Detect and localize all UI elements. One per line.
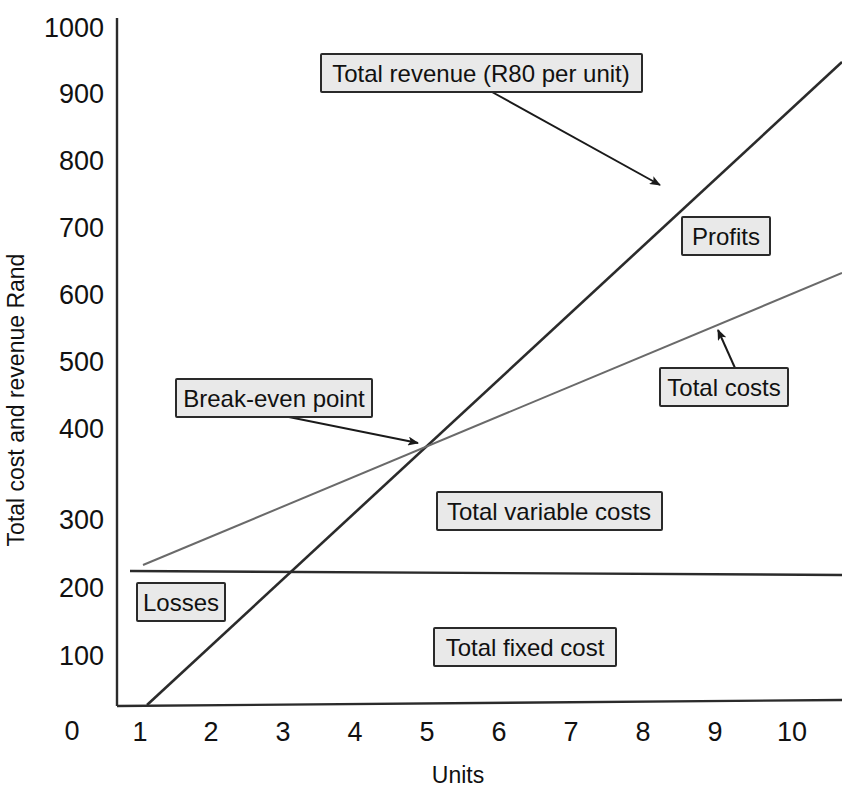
annotation-losses: Losses — [137, 583, 225, 621]
total-revenue-label: Total revenue (R80 per unit) — [332, 60, 630, 87]
x-tick-5: 5 — [419, 717, 434, 747]
annotation-total-variable-costs: Total variable costs — [437, 492, 662, 530]
x-tick-1: 1 — [132, 717, 147, 747]
total-variable-costs-label: Total variable costs — [447, 498, 651, 525]
break-even-chart: 1000 900 800 700 600 500 400 300 200 100… — [0, 0, 842, 791]
losses-label: Losses — [143, 589, 219, 616]
y-tick-1000: 1000 — [44, 13, 104, 43]
y-tick-400: 400 — [59, 414, 104, 444]
y-tick-0: 0 — [64, 716, 79, 746]
profits-label: Profits — [692, 223, 760, 250]
x-tick-7: 7 — [563, 717, 578, 747]
annotation-profits: Profits — [682, 217, 770, 255]
y-tick-800: 800 — [59, 146, 104, 176]
x-tick-9: 9 — [707, 717, 722, 747]
total-costs-arrow — [718, 330, 735, 368]
total-fixed-cost-label: Total fixed cost — [446, 634, 605, 661]
chart-canvas: 1000 900 800 700 600 500 400 300 200 100… — [0, 0, 842, 791]
y-tick-500: 500 — [59, 347, 104, 377]
annotation-total-fixed-cost: Total fixed cost — [434, 628, 616, 666]
y-tick-600: 600 — [59, 280, 104, 310]
total-revenue-arrow — [492, 92, 660, 185]
total-costs-label: Total costs — [667, 374, 780, 401]
y-tick-700: 700 — [59, 213, 104, 243]
x-axis-title: Units — [432, 762, 484, 788]
x-tick-10: 10 — [777, 717, 807, 747]
y-tick-900: 900 — [59, 79, 104, 109]
x-tick-8: 8 — [635, 717, 650, 747]
x-tick-2: 2 — [203, 717, 218, 747]
y-tick-200: 200 — [59, 573, 104, 603]
total-fixed-cost-line — [130, 571, 842, 575]
x-tick-3: 3 — [275, 717, 290, 747]
x-tick-4: 4 — [347, 717, 362, 747]
break-even-label: Break-even point — [183, 385, 365, 412]
annotation-break-even-point: Break-even point — [176, 379, 418, 443]
y-axis-title: Total cost and revenue Rand — [3, 254, 29, 547]
y-tick-100: 100 — [59, 641, 104, 671]
x-axis-line — [117, 700, 842, 706]
annotation-total-revenue: Total revenue (R80 per unit) — [321, 54, 660, 185]
y-tick-300: 300 — [59, 505, 104, 535]
x-tick-6: 6 — [491, 717, 506, 747]
